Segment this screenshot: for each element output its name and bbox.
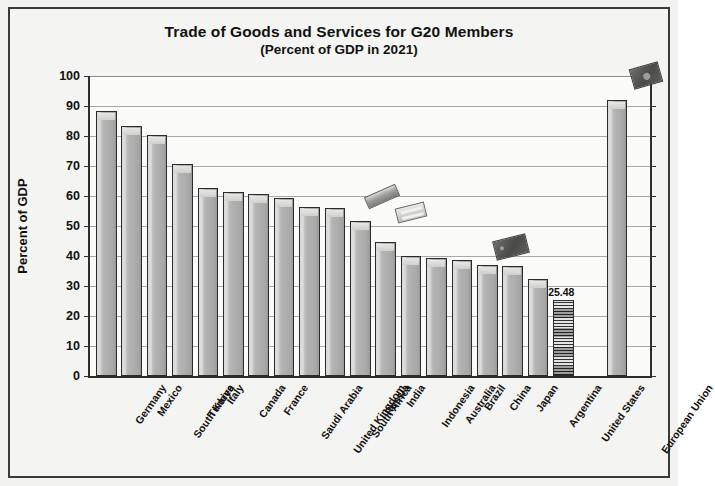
bar-highlight-cap [98, 113, 115, 120]
bar-brazil[interactable] [452, 260, 473, 376]
y-axis-tick-label: 80 [66, 129, 80, 143]
bar-france[interactable] [248, 194, 269, 376]
bar-highlight-cap [276, 200, 293, 207]
x-axis-label-saudi-arabia: Saudi Arabia [318, 382, 364, 441]
bar-highlight-cap [301, 209, 318, 216]
y-axis-tick-right [650, 166, 656, 167]
y-axis-tick-label: 0 [73, 369, 80, 383]
bar-highlight-cap [479, 267, 496, 274]
bar-highlight-cap [149, 137, 166, 144]
bar-t-rkiye[interactable] [172, 164, 193, 376]
y-axis-tick-right [650, 346, 656, 347]
bar-south-korea[interactable] [147, 135, 168, 377]
y-axis-tick-label: 30 [66, 279, 80, 293]
x-axis-labels: GermanyMexicoSouth KoreaTürkiyeItalyCana… [88, 382, 648, 482]
y-axis-tick-label: 70 [66, 159, 80, 173]
bar-highlight-cap [504, 268, 521, 275]
y-axis-tick-label: 10 [66, 339, 80, 353]
y-axis-tick [84, 376, 90, 377]
bar-highlight-cap [123, 128, 140, 135]
y-axis-tick-label: 90 [66, 99, 80, 113]
x-axis-label-argentina: Argentina [566, 382, 604, 429]
y-axis-title: Percent of GDP [15, 178, 30, 273]
x-axis-label-united-states: United States [599, 382, 647, 444]
bar-highlight-cap [403, 258, 420, 265]
bar-united-states[interactable] [553, 300, 574, 376]
chart-subtitle: (Percent of GDP in 2021) [0, 41, 678, 59]
y-axis-tick-right [650, 226, 656, 227]
bar-value-label-united-states: 25.48 [548, 286, 574, 298]
bar-highlight-cap [530, 281, 547, 288]
bar-canada[interactable] [223, 192, 244, 376]
bar-australia[interactable] [426, 258, 447, 377]
bar-highlight-cap [454, 262, 471, 269]
y-axis-tick-right [650, 316, 656, 317]
y-axis-tick-right [650, 286, 656, 287]
y-axis-tick-right [650, 256, 656, 257]
bar-highlight-cap [327, 210, 344, 217]
y-axis-tick-right [650, 106, 656, 107]
bar-germany[interactable] [96, 111, 117, 377]
y-axis-tick-right [650, 136, 656, 137]
plot-area: 0102030405060708090100 25.48 [88, 76, 652, 378]
bar-saudi-arabia[interactable] [274, 198, 295, 376]
chart-title-block: Trade of Goods and Services for G20 Memb… [0, 22, 678, 59]
bar-european-union[interactable] [607, 100, 628, 376]
bar-italy[interactable] [198, 188, 219, 376]
bar-mexico[interactable] [121, 126, 142, 377]
x-axis-label-japan: Japan [533, 382, 560, 414]
y-axis-tick-label: 60 [66, 189, 80, 203]
bar-japan[interactable] [502, 266, 523, 376]
bar-highlight-cap [200, 190, 217, 197]
bar-highlight-cap [250, 196, 267, 203]
bar-indonesia[interactable] [401, 256, 422, 376]
bar-south-africa[interactable] [325, 208, 346, 376]
bar-highlight-cap [609, 102, 626, 109]
x-axis-label-canada: Canada [256, 382, 288, 420]
bar-united-kingdom[interactable] [299, 207, 320, 377]
y-axis-tick-label: 50 [66, 219, 80, 233]
bar-india[interactable] [375, 242, 396, 376]
bar-highlight-cap [352, 223, 369, 230]
page-title: Trade of Goods and Services for G20 Memb… [0, 22, 678, 41]
bar-russia[interactable] [350, 221, 371, 376]
bar-china[interactable] [477, 265, 498, 376]
bar-highlight-cap [174, 166, 191, 173]
bar-argentina[interactable] [528, 279, 549, 376]
x-axis-label-china: China [507, 382, 534, 413]
y-axis-tick-right [650, 196, 656, 197]
y-axis-tick-label: 20 [66, 309, 80, 323]
y-axis-tick-label: 40 [66, 249, 80, 263]
y-axis-tick-label: 100 [59, 69, 80, 83]
bar-highlight-cap [225, 194, 242, 201]
bar-highlight-cap [428, 260, 445, 267]
bar-series: 25.48 [90, 76, 650, 376]
y-axis-tick-right [650, 376, 656, 377]
bar-highlight-cap [377, 244, 394, 251]
